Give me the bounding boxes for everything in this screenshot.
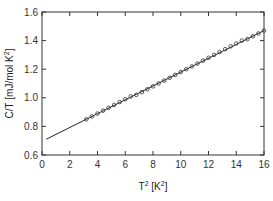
plot-frame bbox=[42, 12, 264, 155]
chart: 02468101214160.60.81.01.21.41.6T2 [K2]C/… bbox=[0, 0, 273, 201]
x-tick-label: 8 bbox=[150, 159, 156, 170]
x-tick-label: 0 bbox=[39, 159, 45, 170]
x-tick-label: 14 bbox=[231, 159, 243, 170]
x-tick-label: 6 bbox=[122, 159, 128, 170]
x-tick-label: 2 bbox=[67, 159, 73, 170]
x-tick-label: 10 bbox=[175, 159, 187, 170]
y-tick-label: 1.4 bbox=[24, 35, 38, 46]
y-axis-label: C/T [mJ/mol K2] bbox=[3, 48, 15, 118]
fit-line bbox=[46, 31, 264, 140]
y-tick-label: 1.6 bbox=[24, 7, 38, 18]
x-tick-label: 12 bbox=[203, 159, 215, 170]
y-tick-label: 0.8 bbox=[24, 121, 38, 132]
y-tick-label: 1.0 bbox=[24, 92, 38, 103]
y-tick-label: 0.6 bbox=[24, 150, 38, 161]
x-axis-label: T2 [K2] bbox=[139, 180, 168, 192]
x-tick-label: 4 bbox=[95, 159, 101, 170]
x-tick-label: 16 bbox=[258, 159, 270, 170]
y-tick-label: 1.2 bbox=[24, 64, 38, 75]
